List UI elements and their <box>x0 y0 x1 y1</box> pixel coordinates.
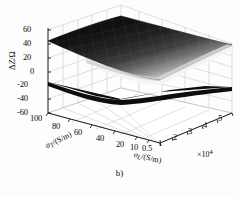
z-tick-label: -20 <box>17 80 28 89</box>
sigma-t-tick-label: 20 <box>116 140 124 149</box>
plot-svg <box>0 0 239 160</box>
sigma-l-tick-label: 2 <box>173 133 177 142</box>
z-tick-label: -60 <box>17 108 28 117</box>
z-tick-label: 20 <box>23 53 31 62</box>
z-axis-title: ΔZ/Ω <box>7 56 17 70</box>
sigma-l-axis-multiplier: ×104 <box>197 148 213 159</box>
upper-surface <box>48 16 232 85</box>
z-tick-label: 40 <box>23 39 31 48</box>
sigma-t-tick-label: 100 <box>30 114 42 123</box>
sigma-l-tick-label: 3 <box>188 127 192 136</box>
z-tick-label: -40 <box>17 94 28 103</box>
sigma-l-tick-label: 1 <box>158 139 162 148</box>
surface-plot-3d: 60 40 20 0 -20 -40 -60 100 80 60 40 20 1… <box>0 0 239 160</box>
figure-container: 60 40 20 0 -20 -40 -60 100 80 60 40 20 1… <box>0 0 239 197</box>
z-tick-label: 60 <box>23 25 31 34</box>
sigma-t-tick-label: 60 <box>74 128 82 137</box>
sigma-t-tick-label: 80 <box>52 122 60 131</box>
z-tick-label: 0 <box>30 67 34 76</box>
figure-caption: b) <box>0 168 239 178</box>
sigma-t-tick-label: 40 <box>96 134 104 143</box>
sigma-l-tick-label: 4 <box>203 121 207 130</box>
sigma-l-tick-label: 5 <box>218 114 222 123</box>
